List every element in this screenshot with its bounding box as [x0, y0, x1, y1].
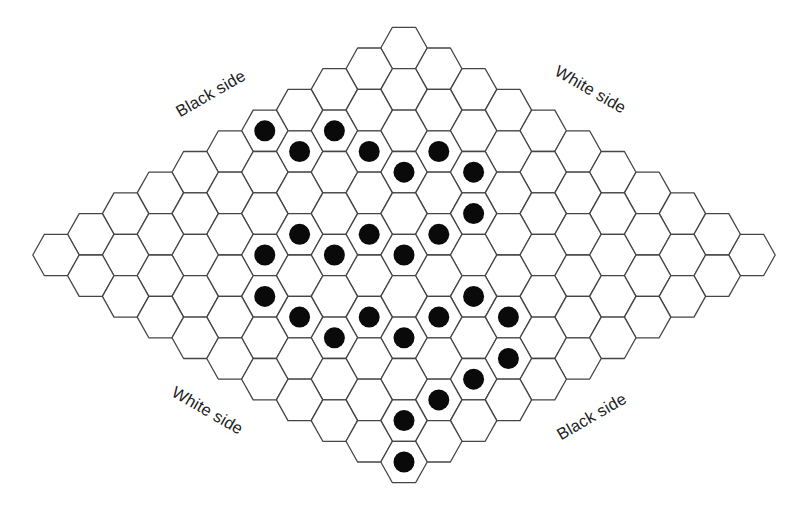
black-stone: [394, 162, 415, 183]
black-stone: [428, 224, 449, 245]
black-stone: [428, 389, 449, 410]
black-stone: [463, 203, 484, 224]
black-stone: [428, 307, 449, 328]
black-stone: [289, 141, 310, 162]
black-stone: [359, 307, 380, 328]
black-stone: [254, 286, 275, 307]
black-stone: [498, 348, 519, 369]
black-stone: [498, 307, 519, 328]
black-stone: [463, 162, 484, 183]
black-stone: [463, 286, 484, 307]
hex-board: [0, 0, 811, 512]
black-stone: [289, 307, 310, 328]
black-stone: [324, 327, 345, 348]
black-stone: [324, 120, 345, 141]
black-stone: [359, 224, 380, 245]
black-stone: [428, 141, 449, 162]
black-stone: [394, 410, 415, 431]
black-stone: [324, 245, 345, 266]
black-stone: [394, 327, 415, 348]
black-stone: [254, 120, 275, 141]
black-stone: [463, 369, 484, 390]
black-stone: [359, 141, 380, 162]
black-stone: [254, 245, 275, 266]
black-stone: [394, 452, 415, 473]
black-stone: [289, 224, 310, 245]
black-stone: [394, 245, 415, 266]
